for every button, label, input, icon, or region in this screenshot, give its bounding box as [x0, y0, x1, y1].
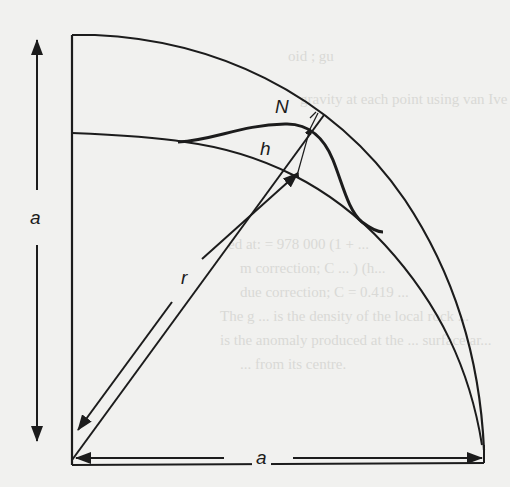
label-h: h	[260, 139, 271, 158]
geoid-ellipsoid-diagram: oid ; gu gravity at each point using van…	[0, 0, 510, 487]
undulation-measure	[298, 112, 318, 172]
geoid-curve	[178, 124, 383, 232]
radius-vector-r	[72, 115, 324, 460]
label-a-horizontal: a	[252, 448, 271, 467]
label-a-vertical: a	[30, 206, 41, 229]
label-r: r	[181, 268, 187, 287]
diagram-canvas	[0, 0, 510, 487]
label-N: N	[275, 97, 289, 116]
